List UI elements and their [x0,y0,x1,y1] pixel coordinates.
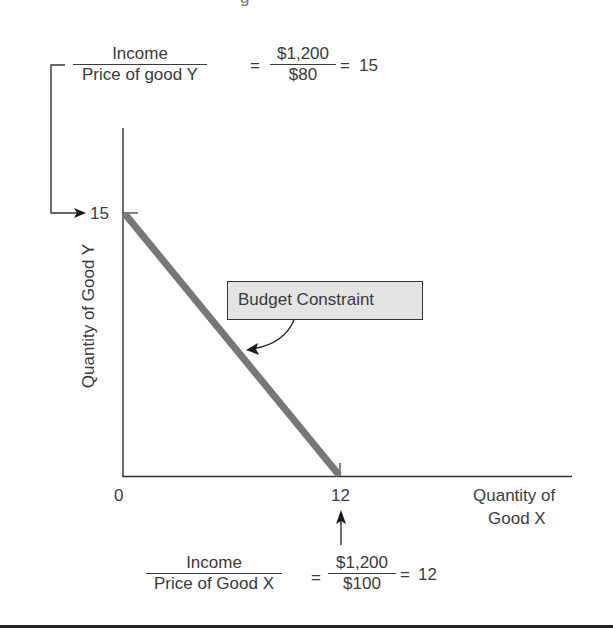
bottom-formula-fraction-1: Income Price of Good X [146,553,282,594]
x-axis-label-line1: Quantity of [473,487,555,504]
budget-constraint-line [125,214,339,475]
top-formula-fraction-2: $1,200 $80 [270,44,336,85]
bottom-formula-denominator: Price of Good X [152,574,276,594]
top-formula-numerator: Income [110,44,170,64]
bottom-formula-equals-1: = [311,569,321,586]
pointer-arrow [252,320,294,349]
origin-label: 0 [114,487,123,504]
bottom-formula-result: 12 [418,566,437,583]
bottom-formula-value-numerator: $1,200 [334,553,390,573]
top-formula-denominator: Price of good Y [80,65,200,85]
bottom-divider [0,625,613,628]
y-tick-label-15: 15 [90,205,109,222]
budget-constraint-label-text: Budget Constraint [238,290,374,309]
top-formula-equals-1: = [250,57,260,74]
y-axis-label: Quantity of Good Y [79,241,99,391]
top-formula-result: 15 [359,57,378,74]
budget-constraint-label: Budget Constraint [227,281,423,320]
x-axis-label-line2: Good X [488,510,546,527]
bottom-formula-fraction-2: $1,200 $100 [328,553,396,594]
top-formula-value-denominator: $80 [287,65,319,85]
bottom-formula-value-denominator: $100 [341,574,383,594]
bottom-formula-numerator: Income [184,553,244,573]
top-formula-value-numerator: $1,200 [275,44,331,64]
top-formula-equals-2: = [340,57,350,74]
bottom-formula-equals-2: = [400,566,410,583]
bracket-arrow-to-y-intercept [51,65,86,218]
top-formula-fraction-1: Income Price of good Y [73,44,207,85]
arrow-head-icon [246,343,259,355]
x-tick-label-12: 12 [331,487,350,504]
